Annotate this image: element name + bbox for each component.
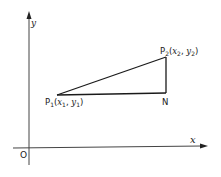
svg-text:P2(x2, y2): P2(x2, y2) [160,46,198,57]
point-label-p2: P2(x2, y2) [160,46,198,57]
svg-text:P1(x1, y1): P1(x1, y1) [45,97,83,108]
point-label-n: N [162,97,168,107]
point-label-p1: P1(x1, y1) [45,97,83,108]
x-axis [13,146,202,148]
x-axis-label: x [190,134,196,145]
x-axis-arrow-icon [200,144,208,149]
y-axis-label: y [30,18,37,28]
diagram-canvas: y x O P2(x2, y2) P1(x1, y1) N [0,0,221,177]
origin-label: O [20,150,27,160]
segment-p1-n [57,93,166,95]
segment-p1-p2 [57,57,166,95]
